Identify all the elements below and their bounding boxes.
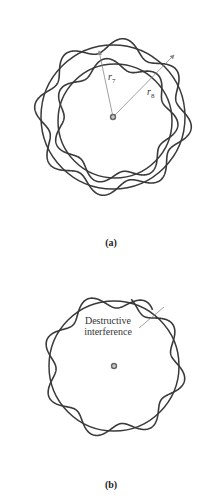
annotation-leader-line (139, 307, 164, 328)
annotation-interference: interference (84, 326, 132, 337)
standing-wave-n7 (56, 59, 178, 182)
figure-b: Destructive interference (b) (46, 298, 185, 491)
caption-b: (b) (105, 479, 117, 491)
figure-a: r7 r8 (a) (35, 39, 192, 249)
standing-wave-diagram: r7 r8 (a) Destructive interference (b) (0, 0, 221, 498)
label-r8: r8 (147, 86, 155, 100)
label-r7: r7 (108, 71, 116, 85)
caption-a: (a) (105, 237, 117, 249)
annotation-destructive: Destructive (85, 315, 132, 326)
radius-arrow-r7 (99, 51, 113, 117)
